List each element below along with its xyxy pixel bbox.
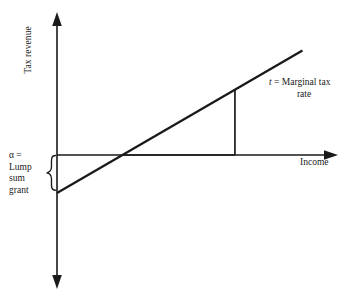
grant-line: grant — [9, 185, 32, 197]
x-axis-label: Income — [300, 158, 329, 168]
marginal-tax-rate-line2: rate — [269, 89, 353, 101]
y-axis-label: Tax revenue — [22, 12, 36, 88]
y-axis-arrow-up-icon — [52, 12, 62, 26]
lump-line: Lump — [9, 162, 32, 174]
lump-sum-brace — [47, 156, 56, 191]
marginal-tax-rate-annotation: t = Marginal tax rate — [269, 77, 353, 101]
brace-glyph-icon — [47, 156, 56, 191]
y-axis-label-text: Tax revenue — [24, 26, 34, 74]
lump-sum-grant-annotation: α = Lump sum grant — [9, 150, 32, 196]
x-axis-label-text: Income — [300, 157, 329, 167]
y-axis-arrow-down-icon — [52, 275, 62, 289]
alpha-equals-line: α = — [9, 150, 32, 162]
figure-container: Tax revenue Income α = Lump sum grant t … — [0, 0, 353, 291]
marginal-tax-rate-line1: t = Marginal tax — [269, 77, 353, 89]
marginal-tax-rate-equals: = Marginal tax — [272, 77, 331, 87]
tax-schedule-plot — [0, 0, 353, 291]
sum-line: sum — [9, 173, 32, 185]
tax-schedule-line — [57, 51, 302, 194]
y-axis — [52, 12, 62, 289]
